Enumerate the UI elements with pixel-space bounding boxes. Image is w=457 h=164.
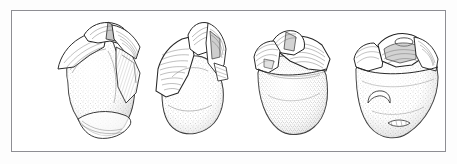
view-a-basal-scar — [78, 112, 131, 139]
view-d-crown-shadow — [384, 43, 416, 63]
figure-frame — [11, 10, 446, 152]
specimen-view-b-oblique-right — [156, 23, 228, 134]
view-c-small-negative — [264, 59, 274, 69]
view-c-left-upper-scar — [254, 41, 280, 73]
figure-root: Lithic core — four views — [0, 0, 457, 164]
specimen-view-c-frontal — [254, 31, 330, 135]
lithic-plate-illustration — [12, 11, 447, 153]
view-d-basal-notch-row — [388, 120, 410, 126]
specimen-view-d-reverse — [354, 33, 438, 137]
specimen-view-a-oblique-left — [58, 22, 140, 138]
